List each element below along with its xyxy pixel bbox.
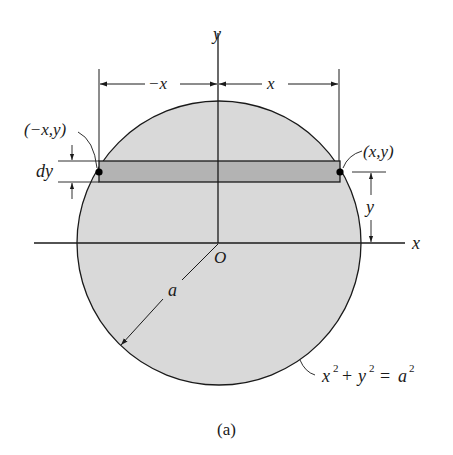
left-point-label: (−x,y) <box>24 120 66 139</box>
svg-text:+: + <box>342 366 352 386</box>
differential-strip <box>99 161 340 182</box>
strip-height-label: dy <box>36 161 53 181</box>
svg-text:x: x <box>321 366 330 386</box>
svg-text:2: 2 <box>333 362 339 374</box>
svg-text:2: 2 <box>369 362 375 374</box>
right-point-label: (x,y) <box>363 142 394 161</box>
y-axis-label: y <box>211 24 221 44</box>
circle-area-diagram: y x O a −x x (−x,y) (x,y) dy y x 2 + y 2… <box>0 0 453 455</box>
svg-text:=: = <box>380 366 390 386</box>
dim-left-label: −x <box>148 74 167 93</box>
dim-right-label: x <box>266 74 275 93</box>
figure-caption: (a) <box>0 420 453 440</box>
strip-elevation-label: y <box>364 197 374 217</box>
svg-text:2: 2 <box>409 362 415 374</box>
leader-equation <box>300 360 315 375</box>
right-point-dot <box>336 168 343 175</box>
circle-equation: x 2 + y 2 = a 2 <box>321 362 415 386</box>
leader-left-point <box>78 132 97 168</box>
origin-label: O <box>214 248 226 267</box>
svg-text:a: a <box>398 366 407 386</box>
left-point-dot <box>95 168 102 175</box>
x-axis-label: x <box>411 233 420 253</box>
radius-label: a <box>168 280 177 300</box>
svg-text:y: y <box>356 366 366 386</box>
leader-right-point <box>343 151 362 168</box>
